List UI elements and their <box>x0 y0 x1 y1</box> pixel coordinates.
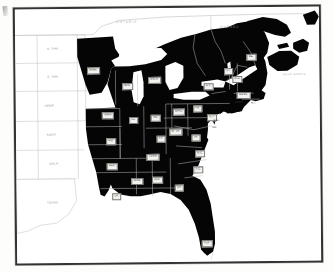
region-label-quebec: QUEBEC <box>220 26 239 30</box>
state-label-pennsylvania: PA. <box>193 105 202 112</box>
state-label-massachusetts: MASS. <box>237 92 251 99</box>
state-label-vermont: VT. <box>224 68 233 75</box>
state-label-ohio: OHIO <box>173 109 185 116</box>
state-label-new-hampshire: N.H. <box>232 76 242 83</box>
state-label-maryland: MD. <box>212 126 217 129</box>
state-label-south-dakota: S. DAK. <box>47 76 59 79</box>
state-label-georgia: GA. <box>175 185 184 192</box>
map-frame: MINN. WIS. MICH. IOWA ILL. IND. OHIO MO.… <box>13 5 323 266</box>
scan-artifact <box>2 6 8 17</box>
region-label-ontario: ONTARIO <box>116 21 137 25</box>
state-label-indiana: IND. <box>151 115 161 122</box>
state-label-tennessee: TENN. <box>146 154 160 161</box>
state-label-virginia: VA. <box>192 134 201 141</box>
state-label-michigan: MICH. <box>148 77 161 84</box>
state-label-louisiana: LA. <box>112 193 121 200</box>
state-label-wisconsin: WIS. <box>122 83 133 90</box>
state-label-connecticut: CONN. <box>235 101 244 104</box>
state-label-south-carolina: S.C. <box>193 166 203 173</box>
region-label-nova-scotia: NOVA SCOTIA <box>279 73 309 77</box>
state-label-minnesota: MINN. <box>87 67 100 74</box>
state-label-delaware: DEL. <box>214 119 221 122</box>
state-label-rhode-island: R.I. <box>251 102 256 105</box>
map-page: MINN. WIS. MICH. IOWA ILL. IND. OHIO MO.… <box>0 0 334 272</box>
map-plate: MINN. WIS. MICH. IOWA ILL. IND. OHIO MO.… <box>15 7 321 264</box>
state-label-mississippi: MISS. <box>131 178 143 185</box>
state-label-texas: TEXAS <box>47 202 58 205</box>
state-label-iowa: IOWA <box>102 112 114 119</box>
state-label-maine: ME. <box>246 54 256 61</box>
map-graphic <box>15 7 321 264</box>
state-label-north-carolina: N.C. <box>195 150 205 157</box>
state-label-nebraska: NEBR. <box>44 105 54 108</box>
state-label-new-york: N.Y. <box>204 83 214 90</box>
state-label-west-virginia: W. VA. <box>169 129 182 136</box>
state-label-florida: FLA. <box>202 240 213 247</box>
state-label-arkansas: ARK. <box>107 163 118 170</box>
state-label-kansas: KANS. <box>47 134 57 137</box>
state-label-kentucky: KY. <box>157 136 166 143</box>
state-label-illinois: ILL. <box>129 117 138 124</box>
state-label-missouri: MO. <box>106 138 116 145</box>
state-label-oklahoma: OKLA. <box>49 163 59 166</box>
state-label-alabama: ALA. <box>152 177 163 184</box>
state-label-north-dakota: N. DAK. <box>47 48 60 51</box>
